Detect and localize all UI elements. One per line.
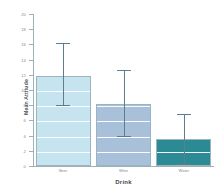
y-axis-tick-label: 8: [0, 103, 26, 108]
gridline: [37, 121, 90, 122]
y-axis-title: Mean Attitude: [23, 49, 29, 145]
x-axis-tick-label: Water: [179, 168, 190, 173]
y-axis-tick-label: 14: [0, 57, 26, 62]
y-axis-tick-label: 4: [0, 133, 26, 138]
y-axis-tick-label: 10: [0, 88, 26, 93]
x-axis-line: [33, 166, 214, 167]
x-axis-title: Drink: [33, 179, 214, 185]
gridline: [37, 106, 90, 107]
y-axis-tick-label: 20: [0, 12, 26, 17]
plot-area: [33, 14, 214, 166]
error-bar-cap-lower: [117, 136, 131, 137]
y-axis-tick-label: 16: [0, 42, 26, 47]
x-axis-tick-label: Wine: [119, 168, 128, 173]
y-axis-tick-label: 6: [0, 118, 26, 123]
error-bar-cap-lower: [177, 164, 191, 165]
gridline: [37, 152, 90, 153]
error-bar-cap-upper: [56, 43, 70, 44]
error-bar-cap-lower: [56, 105, 70, 106]
gridline: [97, 152, 150, 153]
y-axis-tick-label: 18: [0, 27, 26, 32]
y-axis-tick-label: 12: [0, 72, 26, 77]
x-axis-tick-label: Beer: [59, 168, 67, 173]
error-bar-line: [63, 43, 64, 105]
error-bar-line: [184, 114, 185, 165]
bar-chart: Mean Attitude 02468101214161820 BeerWine…: [0, 0, 218, 194]
y-axis-tick-label: 2: [0, 148, 26, 153]
error-bar-cap-upper: [177, 114, 191, 115]
gridline: [37, 137, 90, 138]
y-axis-tick-label: 0: [0, 164, 26, 169]
y-axis-tick: [29, 166, 33, 167]
error-bar-line: [124, 70, 125, 136]
error-bar-cap-upper: [117, 70, 131, 71]
